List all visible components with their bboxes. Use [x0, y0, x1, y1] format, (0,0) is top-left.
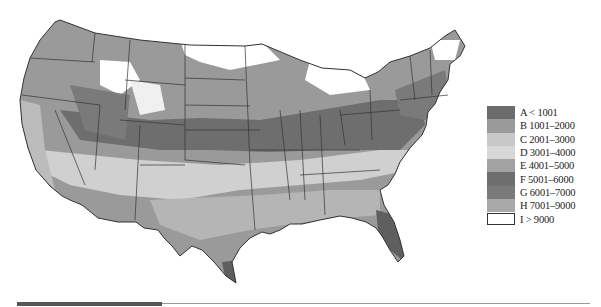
legend-label: H 7001–9000: [520, 200, 575, 211]
map-legend: A < 1001 B 1001–2000 C 2001–3000 D 3001–…: [487, 106, 597, 226]
legend-item-g: G 6001–7000: [487, 186, 597, 199]
legend-item-i: I > 9000: [487, 212, 597, 225]
legend-swatch: [487, 119, 515, 132]
legend-item-h: H 7001–9000: [487, 199, 597, 212]
legend-item-f: F 5001–6000: [487, 172, 597, 185]
legend-swatch: [487, 106, 515, 119]
footer-bar-accent: [17, 302, 162, 306]
legend-swatch: [487, 133, 515, 146]
legend-label: A < 1001: [520, 107, 558, 118]
legend-item-a: A < 1001: [487, 106, 597, 119]
legend-label: E 4001–5000: [520, 160, 574, 171]
legend-swatch: [487, 172, 515, 185]
legend-swatch: [487, 146, 515, 159]
legend-label: B 1001–2000: [520, 120, 575, 131]
legend-item-c: C 2001–3000: [487, 133, 597, 146]
us-map: [0, 0, 480, 290]
legend-label: C 2001–3000: [520, 134, 575, 145]
legend-label: F 5001–6000: [520, 174, 574, 185]
footer-rule: [162, 303, 590, 304]
legend-item-d: D 3001–4000: [487, 146, 597, 159]
legend-item-b: B 1001–2000: [487, 119, 597, 132]
legend-label: G 6001–7000: [520, 187, 575, 198]
legend-swatch: [487, 213, 515, 225]
legend-label: I > 9000: [520, 214, 554, 225]
legend-label: D 3001–4000: [520, 147, 575, 158]
legend-swatch: [487, 186, 515, 199]
legend-swatch: [487, 159, 515, 172]
legend-swatch: [487, 199, 515, 212]
legend-item-e: E 4001–5000: [487, 159, 597, 172]
